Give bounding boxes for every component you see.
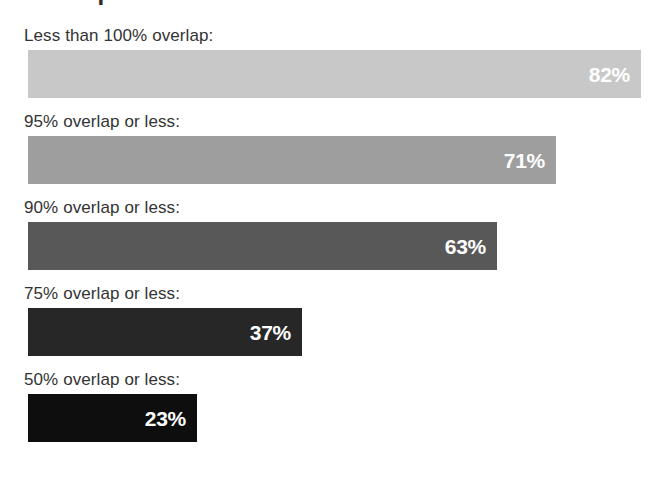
bar-row: Less than 100% overlap: 82% (0, 22, 655, 98)
bar-track: 82% (0, 50, 655, 98)
bar-label: 90% overlap or less: (0, 194, 655, 222)
chart-title-right-fragment: Details (568, 0, 645, 6)
bar-value-label: 37% (250, 322, 291, 343)
bar-track: 71% (0, 136, 655, 184)
bar-label: 75% overlap or less: (0, 280, 655, 308)
bar-fill[interactable]: 63% (28, 222, 497, 270)
bar-label: 50% overlap or less: (0, 366, 655, 394)
bar-row: 95% overlap or less: 71% (0, 108, 655, 184)
chart-title-cutoff: Overlap Details (0, 0, 655, 6)
bar-value-label: 23% (145, 408, 186, 429)
bar-fill[interactable]: 71% (28, 136, 556, 184)
bar-row: 75% overlap or less: 37% (0, 280, 655, 356)
chart-title-left-fragment: Overlap (24, 0, 112, 6)
row-spacer (0, 270, 655, 280)
bar-row: 90% overlap or less: 63% (0, 194, 655, 270)
bar-fill[interactable]: 23% (28, 394, 197, 442)
bar-value-label: 71% (504, 150, 545, 171)
bar-track: 63% (0, 222, 655, 270)
bar-value-label: 63% (445, 236, 486, 257)
bar-fill[interactable]: 37% (28, 308, 302, 356)
bar-row: 50% overlap or less: 23% (0, 366, 655, 442)
row-spacer (0, 98, 655, 108)
bar-label: Less than 100% overlap: (0, 22, 655, 50)
row-spacer (0, 184, 655, 194)
horizontal-bar-chart: Less than 100% overlap: 82% 95% overlap … (0, 22, 655, 442)
bar-label: 95% overlap or less: (0, 108, 655, 136)
bar-value-label: 82% (589, 64, 630, 85)
row-spacer (0, 356, 655, 366)
bar-track: 37% (0, 308, 655, 356)
bar-fill[interactable]: 82% (28, 50, 641, 98)
bar-track: 23% (0, 394, 655, 442)
